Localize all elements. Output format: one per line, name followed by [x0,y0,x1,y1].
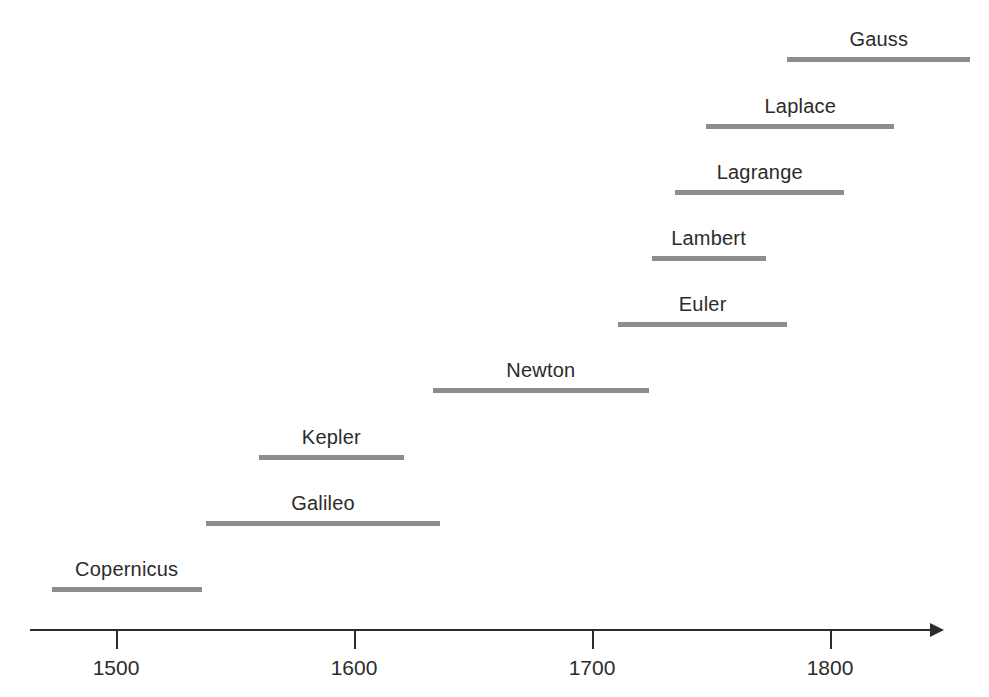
axis-tick [592,631,594,649]
axis-tick-label: 1800 [807,657,854,678]
axis-tick-label: 1700 [569,657,616,678]
axis-arrow-icon [930,623,944,637]
lifespan-bar [206,521,439,526]
lifespan-bar [706,124,894,129]
axis-tick [116,631,118,649]
axis-tick-label: 1500 [93,657,140,678]
lifespan-label: Gauss [849,29,908,49]
lifespan-label: Copernicus [75,559,178,579]
lifespan-label: Laplace [765,96,836,116]
lifespan-bar [652,256,766,261]
lifespan-label: Kepler [302,427,361,447]
lifespan-bar [675,190,844,195]
lifespan-bar [433,388,650,393]
timeline-chart: CopernicusGalileoKeplerNewtonEulerLamber… [0,0,989,697]
axis-tick-label: 1600 [331,657,378,678]
lifespan-bar [618,322,787,327]
lifespan-bar [787,57,970,62]
lifespan-label: Lagrange [717,162,803,182]
lifespan-label: Galileo [291,493,355,513]
lifespan-bar [52,587,202,592]
lifespan-bar [259,455,404,460]
axis-tick [830,631,832,649]
time-axis-line [30,629,930,631]
lifespan-label: Newton [506,360,575,380]
lifespan-label: Lambert [671,228,746,248]
lifespan-label: Euler [679,294,727,314]
axis-tick [354,631,356,649]
